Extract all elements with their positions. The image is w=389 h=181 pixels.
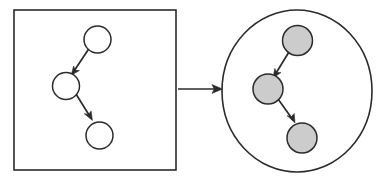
target-node-top (283, 26, 313, 56)
target-node-middle (253, 74, 283, 104)
target-node-bottom (287, 123, 317, 153)
transform-arrow (178, 85, 223, 94)
diagram-canvas (0, 0, 389, 181)
source-node-bottom (86, 122, 113, 149)
source-panel-group (14, 10, 176, 170)
source-node-middle (53, 73, 80, 100)
source-node-top (84, 26, 111, 53)
target-panel-group (222, 10, 372, 172)
diagram-figure (0, 0, 389, 181)
